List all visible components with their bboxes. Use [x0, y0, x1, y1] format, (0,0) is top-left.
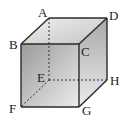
vertex-label-E: E [37, 70, 45, 85]
vertex-label-B: B [9, 37, 18, 52]
vertex-label-F: F [9, 101, 16, 116]
vertex-label-H: H [110, 73, 119, 88]
vertex-label-G: G [82, 103, 91, 118]
vertex-label-A: A [38, 5, 48, 20]
cube-diagram: A B C D E F G H [0, 0, 126, 121]
vertex-label-C: C [81, 44, 90, 59]
vertex-label-D: D [109, 8, 118, 23]
front-face [21, 44, 79, 107]
